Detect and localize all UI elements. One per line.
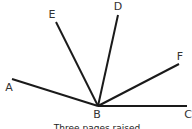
label-b: B	[93, 108, 101, 121]
label-f: F	[177, 50, 183, 63]
ray-bd	[98, 15, 118, 106]
angle-diagram: A E D F C B Three pages raised	[0, 0, 192, 129]
label-a: A	[5, 81, 13, 94]
ray-bf	[98, 64, 179, 106]
caption: Three pages raised	[53, 123, 140, 129]
label-d: D	[114, 0, 122, 13]
label-c: C	[184, 108, 192, 121]
ray-be	[56, 22, 98, 106]
label-e: E	[49, 8, 56, 21]
ray-ba	[12, 79, 98, 106]
